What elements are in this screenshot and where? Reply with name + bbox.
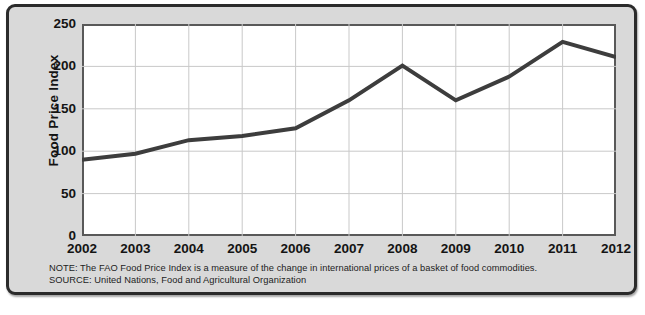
footnotes: NOTE: The FAO Food Price Index is a meas… (49, 263, 609, 286)
x-tick-label: 2011 (533, 242, 593, 256)
chart-card: Food Price Index 050100150200250 2002200… (6, 4, 637, 295)
x-tick-label: 2005 (212, 242, 272, 256)
note-line: NOTE: The FAO Food Price Index is a meas… (49, 263, 609, 275)
plot-gridlines-and-series (82, 24, 616, 236)
y-tick-label: 50 (30, 187, 76, 201)
y-tick-label: 250 (30, 17, 76, 31)
x-tick-label: 2008 (372, 242, 432, 256)
y-tick-label: 100 (30, 144, 76, 158)
source-line: SOURCE: United Nations, Food and Agricul… (49, 275, 609, 287)
x-tick-label: 2006 (266, 242, 326, 256)
x-tick-label: 2010 (479, 242, 539, 256)
food-price-index-line-chart: Food Price Index 050100150200250 2002200… (9, 7, 640, 298)
x-tick-label: 2002 (52, 242, 112, 256)
x-tick-label: 2007 (319, 242, 379, 256)
vertical-gridlines (135, 24, 562, 236)
y-tick-label: 150 (30, 102, 76, 116)
x-tick-label: 2009 (426, 242, 486, 256)
x-tick-label: 2012 (586, 242, 645, 256)
y-tick-label: 200 (30, 59, 76, 73)
x-tick-label: 2003 (105, 242, 165, 256)
x-tick-label: 2004 (159, 242, 219, 256)
